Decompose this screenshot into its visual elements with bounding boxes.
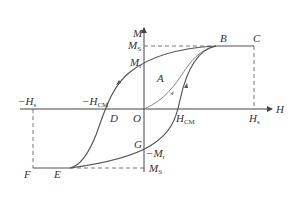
hcm-neg-label: −HCM <box>82 95 109 109</box>
point-g-label: G <box>134 138 142 150</box>
point-e-label: E <box>53 168 61 180</box>
point-b-label: B <box>220 32 227 44</box>
ms-neg-label: MS <box>148 162 162 176</box>
point-a-label: A <box>156 72 164 84</box>
mr-pos-label: Mr <box>129 56 142 70</box>
point-c-label: C <box>253 32 261 44</box>
hs-pos-label: Hs <box>248 112 260 126</box>
ascending-branch <box>70 46 216 168</box>
origin-label: O <box>133 112 141 124</box>
hs-neg-label: −Hs <box>18 95 36 109</box>
arrow-initial-icon <box>170 91 174 95</box>
hcm-pos-label: HCM <box>175 112 196 126</box>
point-d-label: D <box>109 112 118 124</box>
ms-pos-label: MS <box>127 39 141 53</box>
m-axis-label: M <box>132 27 143 39</box>
mr-neg-label: −Mr <box>146 147 166 161</box>
point-f-label: F <box>23 168 31 180</box>
hysteresis-diagram: M H O A B C D E F G MS Mr −Mr MS Hs −Hs … <box>0 0 291 202</box>
h-axis-label: H <box>275 103 285 115</box>
